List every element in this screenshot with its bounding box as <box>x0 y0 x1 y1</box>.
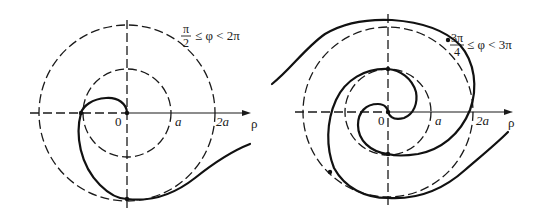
left-range-numerator: π <box>183 22 189 36</box>
right-top-inner-point <box>386 67 390 71</box>
right-range-numerator: 3π <box>451 31 463 45</box>
right-upper-intersection-point <box>446 38 450 42</box>
right-bottom-inner-point <box>386 152 390 156</box>
right-lower-intersection-point <box>328 170 332 174</box>
right-a-label: a <box>435 113 442 128</box>
left-plot: 0 a 2a ρ π 2 ≤ φ < 2π <box>30 20 258 208</box>
right-rho-label: ρ <box>508 115 515 130</box>
left-2a-label: 2a <box>216 114 230 129</box>
left-range-relation: ≤ φ < 2π <box>195 28 240 43</box>
right-range-denominator: 4 <box>454 45 460 59</box>
right-plot: 0 a 2a ρ 3π 4 ≤ φ < 3π <box>272 14 515 208</box>
right-origin-label: 0 <box>378 113 385 128</box>
left-range-denominator: 2 <box>183 36 189 50</box>
left-origin-point <box>125 111 129 115</box>
right-origin-point <box>386 110 390 114</box>
left-a-label: a <box>175 114 182 129</box>
figure-canvas: 0 a 2a ρ π 2 ≤ φ < 2π 0 a 2a <box>0 0 540 220</box>
left-rho-label: ρ <box>251 116 258 131</box>
right-2a-label: 2a <box>476 113 490 128</box>
left-axis-arrow-icon <box>242 110 251 116</box>
left-bottom-point <box>125 197 129 201</box>
right-range-relation: ≤ φ < 3π <box>467 37 512 52</box>
left-range-label: π 2 ≤ φ < 2π <box>181 22 240 50</box>
right-range-label: 3π 4 ≤ φ < 3π <box>450 31 512 59</box>
left-intersection-point <box>79 111 83 115</box>
left-origin-label: 0 <box>115 114 122 129</box>
